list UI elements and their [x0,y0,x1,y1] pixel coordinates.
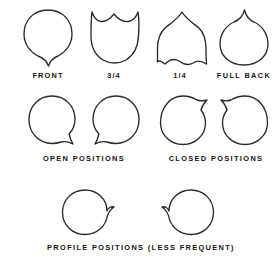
figure-profile-right [60,188,116,238]
caption-closed-positions: CLOSED POSITIONS [169,155,264,162]
caption-front: FRONT [32,72,63,79]
figure-full-back [216,8,272,68]
figure-three-quarter [88,10,142,68]
caption-open-positions: OPEN POSITIONS [43,155,125,162]
caption-one-quarter: 1/4 [173,72,187,79]
figure-front [20,8,76,68]
figure-open-left [27,94,79,148]
caption-full-back: FULL BACK [217,72,271,79]
diagram-sheet: FRONT 3/4 1/4 FULL BACK OPEN POSITIONS [0,0,280,267]
figure-closed-right [219,94,271,148]
caption-three-quarter: 3/4 [107,72,121,79]
figure-open-right [89,94,141,148]
figure-one-quarter [155,10,209,68]
figure-profile-left [160,188,216,238]
caption-profile-positions: PROFILE POSITIONS (LESS FREQUENT) [47,244,235,251]
figure-closed-left [159,94,211,148]
